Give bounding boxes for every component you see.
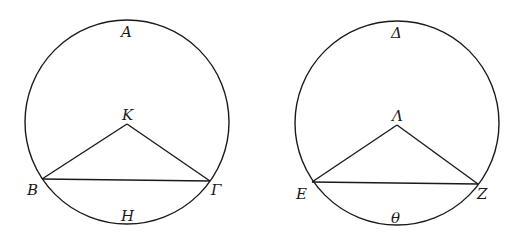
radius-k-b: [42, 124, 127, 179]
label-h: H: [120, 207, 135, 225]
label-gamma: Γ: [210, 181, 222, 199]
label-lambda: Λ: [390, 107, 403, 125]
chord-e-z: [312, 182, 478, 184]
label-a: A: [119, 23, 132, 41]
label-delta: Δ: [390, 24, 402, 42]
label-theta: θ: [391, 209, 400, 227]
chord-b-gamma: [42, 179, 210, 181]
label-e: E: [295, 185, 307, 203]
label-z: Z: [476, 185, 488, 203]
label-k: K: [121, 106, 134, 124]
radius-lambda-z: [397, 125, 478, 184]
right-figure: Δ Λ E Z θ: [295, 21, 499, 227]
radius-k-gamma: [127, 124, 210, 181]
left-figure: A K B Γ H: [25, 20, 229, 225]
diagram-canvas: A K B Γ H Δ Λ E Z θ: [0, 0, 525, 241]
label-b: B: [26, 181, 38, 199]
radius-lambda-e: [312, 125, 397, 182]
